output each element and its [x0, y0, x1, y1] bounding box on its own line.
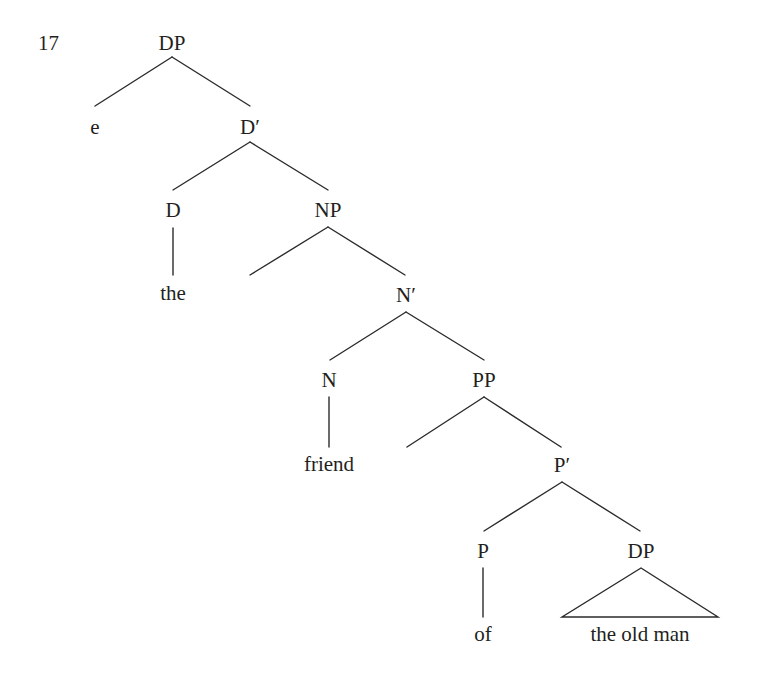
leaf-the: the [160, 282, 186, 304]
tree-branch [330, 312, 406, 360]
node-n-bar: N′ [396, 284, 416, 306]
leaf-of: of [474, 623, 492, 645]
node-e-empty: e [90, 116, 99, 138]
node-dp-root: DP [159, 32, 186, 54]
node-d-bar: D′ [240, 116, 260, 138]
tree-branch [250, 227, 328, 275]
tree-branch [95, 57, 172, 106]
node-dp-object: DP [628, 540, 655, 562]
tree-branch [250, 142, 328, 190]
node-p: P [477, 540, 489, 562]
tree-branch [173, 142, 250, 190]
tree-branch [406, 312, 484, 360]
node-p-bar: P′ [554, 454, 570, 476]
tree-branch [407, 397, 484, 447]
tree-branch [484, 482, 562, 531]
leaf-the-old-man: the old man [590, 623, 689, 645]
tree-branch [328, 227, 405, 275]
tree-branch [562, 482, 640, 531]
syntax-tree-branches [0, 0, 757, 682]
tree-branch [484, 397, 561, 447]
node-np: NP [315, 199, 342, 221]
node-pp: PP [472, 369, 495, 391]
leaf-friend: friend [304, 453, 354, 475]
tree-branch [172, 57, 250, 106]
node-d: D [165, 199, 180, 221]
dp-triangle [562, 568, 718, 617]
node-n: N [321, 369, 336, 391]
